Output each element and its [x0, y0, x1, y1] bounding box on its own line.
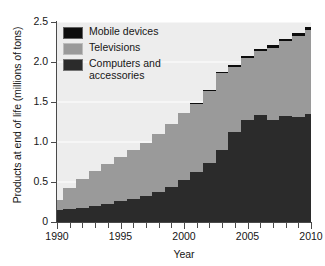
y-tick-label: 2.0 — [33, 55, 48, 67]
x-tick-minor — [146, 223, 147, 228]
chart-legend: Mobile devicesTelevisionsComputers and a… — [63, 25, 161, 81]
x-tick-minor — [209, 223, 210, 228]
x-tick-major — [121, 223, 122, 229]
y-axis-title: Products at end of life (millions of ton… — [11, 10, 23, 220]
x-tick-minor — [260, 223, 261, 228]
x-tick-minor — [273, 223, 274, 228]
y-tick — [51, 182, 57, 183]
y-tick-label: 1.5 — [33, 95, 48, 107]
x-tick-minor — [95, 223, 96, 228]
legend-item: Mobile devices — [63, 25, 161, 39]
x-tick-minor — [108, 223, 109, 228]
x-axis-title: Year — [57, 248, 311, 260]
x-tick-minor — [197, 223, 198, 228]
x-tick-label: 1995 — [109, 230, 132, 242]
x-tick-major — [57, 223, 58, 229]
x-tick-minor — [159, 223, 160, 228]
x-tick-minor — [286, 223, 287, 228]
chart-figure: Products at end of life (millions of ton… — [0, 0, 325, 266]
legend-swatch — [63, 59, 83, 71]
legend-label: Mobile devices — [89, 25, 158, 37]
legend-label: Televisions — [89, 41, 140, 53]
legend-item: Computers and accessories — [63, 57, 161, 81]
y-tick-label: 0.5 — [33, 175, 48, 187]
y-axis-line — [56, 21, 57, 223]
x-tick-label: 1990 — [45, 230, 68, 242]
x-tick-label: 2005 — [236, 230, 259, 242]
y-tick — [51, 62, 57, 63]
x-tick-major — [248, 223, 249, 229]
x-tick-minor — [171, 223, 172, 228]
legend-item: Televisions — [63, 41, 161, 55]
x-tick-minor — [70, 223, 71, 228]
y-tick — [51, 22, 57, 23]
x-tick-major — [184, 223, 185, 229]
y-tick — [51, 102, 57, 103]
y-tick-label: 0 — [42, 215, 48, 227]
legend-swatch — [63, 43, 83, 55]
legend-swatch — [63, 27, 83, 39]
x-tick-minor — [222, 223, 223, 228]
x-tick-label: 2000 — [172, 230, 195, 242]
x-tick-major — [311, 223, 312, 229]
x-tick-minor — [133, 223, 134, 228]
y-tick-label: 2.5 — [33, 15, 48, 27]
x-tick-label: 2010 — [299, 230, 322, 242]
legend-label: Computers and accessories — [89, 57, 161, 81]
y-tick — [51, 142, 57, 143]
x-tick-minor — [298, 223, 299, 228]
x-tick-minor — [235, 223, 236, 228]
y-tick-label: 1.0 — [33, 135, 48, 147]
x-tick-minor — [82, 223, 83, 228]
